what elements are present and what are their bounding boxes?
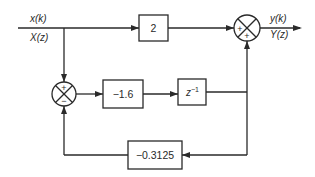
arrowhead-icon xyxy=(95,91,103,97)
feedback-gain-label: −0.3125 xyxy=(136,149,174,161)
arrowhead-icon xyxy=(131,25,139,31)
arrowhead-icon xyxy=(170,91,178,97)
input-z-label: X(z) xyxy=(29,32,48,43)
arrowhead-icon xyxy=(244,41,250,49)
arrowhead-icon xyxy=(182,152,190,158)
arrowhead-icon xyxy=(293,25,302,31)
forward-gain-label: −1.6 xyxy=(113,88,134,100)
right-summing-junction: + + xyxy=(234,15,260,41)
left-summing-junction: + − xyxy=(52,82,76,106)
output-z-label: Y(z) xyxy=(270,29,288,40)
arrowhead-icon xyxy=(226,25,234,31)
left-sum-top-sign: + xyxy=(61,83,66,93)
feedforward-gain-label: 2 xyxy=(151,22,157,34)
input-time-label: x(k) xyxy=(29,13,47,24)
arrowhead-icon xyxy=(61,106,67,114)
right-sum-bottom-sign: + xyxy=(244,31,249,41)
block-diagram: 2 + + + − −1.6 z−1 −0.3125 xyxy=(0,0,315,177)
output-time-label: y(k) xyxy=(269,13,287,24)
right-sum-left-sign: + xyxy=(237,24,242,34)
left-sum-bottom-sign: − xyxy=(61,96,66,106)
arrowhead-icon xyxy=(61,74,67,82)
